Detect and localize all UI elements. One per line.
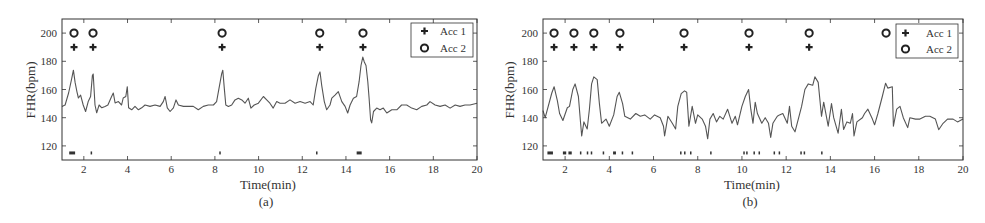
event-marker bbox=[821, 151, 823, 154]
acc1-plus-marker-icon bbox=[616, 44, 623, 51]
event-marker bbox=[804, 151, 806, 154]
x-tick-label: 18 bbox=[913, 163, 925, 175]
y-tick-label: 200 bbox=[522, 27, 539, 39]
event-marker bbox=[547, 151, 553, 154]
acc2-circle-marker-icon bbox=[680, 29, 687, 36]
acc2-circle-marker-icon bbox=[359, 29, 366, 36]
acc1-plus-marker-icon bbox=[316, 44, 323, 51]
x-tick-label: 4 bbox=[125, 163, 131, 175]
event-marker bbox=[746, 151, 748, 154]
x-axis-label-a: Time(min) bbox=[240, 177, 296, 192]
acc2-circle-marker-icon bbox=[570, 29, 577, 36]
panel-a: 2468101214161820120140160180200 Acc 1 Ac… bbox=[23, 19, 483, 209]
event-marker bbox=[800, 151, 802, 154]
x-tick-label: 12 bbox=[297, 163, 308, 175]
acc2-circle-marker-icon bbox=[745, 29, 752, 36]
event-marker bbox=[587, 151, 589, 154]
legend-a: Acc 1 Acc 2 bbox=[411, 23, 473, 57]
acc2-circle-marker-icon bbox=[316, 29, 323, 36]
y-tick-label: 140 bbox=[41, 112, 58, 124]
event-marker bbox=[710, 151, 712, 154]
acc2-circle-marker-icon bbox=[89, 29, 96, 36]
event-marker bbox=[580, 151, 582, 154]
acc1-plus-marker-icon bbox=[90, 44, 97, 51]
event-marker bbox=[357, 151, 362, 154]
event-marker bbox=[690, 151, 692, 154]
y-tick-label: 180 bbox=[522, 55, 539, 67]
y-tick-label: 140 bbox=[522, 112, 539, 124]
event-marker bbox=[69, 151, 75, 154]
x-tick-label: 6 bbox=[651, 163, 657, 175]
y-tick-label: 160 bbox=[522, 84, 539, 96]
x-tick-label: 12 bbox=[781, 163, 792, 175]
event-marker bbox=[632, 151, 634, 154]
x-tick-label: 20 bbox=[472, 163, 484, 175]
acc1-plus-marker-icon bbox=[71, 44, 78, 51]
acc2-circle-marker-icon bbox=[806, 29, 813, 36]
acc2-circle-marker-icon bbox=[616, 29, 623, 36]
x-tick-label: 18 bbox=[428, 163, 440, 175]
acc2-circle-marker-icon bbox=[70, 29, 77, 36]
acc1-plus-marker-icon bbox=[806, 44, 813, 51]
acc1-plus-marker-icon bbox=[359, 44, 366, 51]
event-marker bbox=[568, 151, 571, 154]
event-marker bbox=[753, 151, 755, 154]
panel-label-a: (a) bbox=[259, 194, 273, 209]
x-tick-label: 10 bbox=[736, 163, 748, 175]
event-marker bbox=[91, 151, 93, 154]
x-tick-label: 8 bbox=[695, 163, 701, 175]
y-tick-label: 160 bbox=[41, 84, 58, 96]
y-tick-label: 120 bbox=[41, 140, 58, 152]
x-tick-label: 16 bbox=[869, 163, 881, 175]
fhr-trace-b bbox=[543, 77, 963, 139]
acc1-plus-marker-icon bbox=[551, 44, 558, 51]
event-marker bbox=[613, 151, 616, 154]
x-tick-label: 4 bbox=[607, 163, 613, 175]
fhr-trace-a bbox=[62, 57, 477, 123]
event-marker bbox=[591, 151, 593, 154]
x-tick-label: 6 bbox=[168, 163, 174, 175]
chart-canvas: 2468101214161820120140160180200 Acc 1 Ac… bbox=[0, 0, 985, 223]
acc2-circle-marker-icon bbox=[219, 29, 226, 36]
event-marker bbox=[680, 151, 682, 154]
x-tick-label: 2 bbox=[81, 163, 87, 175]
panel-b: 2468101214161820120140160180200 Acc 1 Ac… bbox=[502, 19, 969, 209]
y-tick-label: 120 bbox=[522, 140, 539, 152]
event-marker bbox=[563, 151, 566, 154]
event-marker bbox=[316, 151, 318, 154]
figure: 2468101214161820120140160180200 Acc 1 Ac… bbox=[0, 0, 985, 223]
acc1-plus-marker-icon bbox=[681, 44, 688, 51]
event-marker bbox=[622, 151, 624, 154]
x-tick-label: 20 bbox=[958, 163, 970, 175]
y-axis-label-b: FHR(bpm) bbox=[502, 61, 517, 118]
x-axis-label-b: Time(min) bbox=[724, 177, 780, 192]
legend-label-acc2: Acc 2 bbox=[926, 43, 952, 55]
panel-label-b: (b) bbox=[742, 194, 757, 209]
event-marker bbox=[219, 151, 221, 154]
x-tick-label: 2 bbox=[562, 163, 568, 175]
event-marker bbox=[774, 151, 776, 154]
legend-label-acc1: Acc 1 bbox=[926, 27, 952, 39]
x-tick-label: 14 bbox=[340, 163, 352, 175]
legend-label-acc1: Acc 1 bbox=[440, 25, 466, 37]
x-tick-label: 16 bbox=[384, 163, 396, 175]
event-marker bbox=[759, 151, 761, 154]
acc1-plus-marker-icon bbox=[570, 44, 577, 51]
x-tick-label: 10 bbox=[253, 163, 265, 175]
acc2-circle-marker-icon bbox=[550, 29, 557, 36]
x-tick-label: 14 bbox=[825, 163, 837, 175]
event-marker bbox=[779, 151, 781, 154]
event-marker bbox=[743, 151, 745, 154]
x-tick-label: 8 bbox=[212, 163, 218, 175]
y-tick-label: 200 bbox=[41, 27, 58, 39]
acc2-circle-marker-icon bbox=[882, 29, 889, 36]
acc1-plus-marker-icon bbox=[219, 44, 226, 51]
y-tick-label: 180 bbox=[41, 55, 58, 67]
event-marker bbox=[684, 151, 686, 154]
event-marker bbox=[603, 151, 605, 154]
y-axis-label-a: FHR(bpm) bbox=[23, 61, 38, 118]
acc2-circle-marker-icon bbox=[590, 29, 597, 36]
legend-b: Acc 1 Acc 2 bbox=[896, 24, 958, 58]
acc1-plus-marker-icon bbox=[746, 44, 753, 51]
legend-label-acc2: Acc 2 bbox=[440, 42, 466, 54]
